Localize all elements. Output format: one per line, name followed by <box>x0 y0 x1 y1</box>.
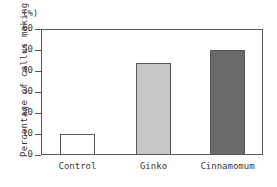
y-axis-tick-mark <box>35 113 41 114</box>
y-axis-tick-label: 30 <box>0 86 33 96</box>
y-axis-tick-mark <box>35 50 41 51</box>
y-axis-tick-mark <box>35 134 41 135</box>
y-axis-tick-mark <box>35 71 41 72</box>
y-axis-tick-label: 0 <box>0 149 33 159</box>
y-axis-tick-mark <box>35 92 41 93</box>
y-axis-tick-label: 10 <box>0 128 33 138</box>
bar-control <box>60 134 95 155</box>
bar-ginko <box>136 63 171 155</box>
bar-chart-figure: Percentage of callus making (%) 01020304… <box>0 0 276 187</box>
y-axis-unit-label: (%) <box>22 8 38 18</box>
y-axis-tick-mark <box>35 155 41 156</box>
x-axis-label-cinnamomum: Cinnamomum <box>178 161 277 171</box>
bar-cinnamomum <box>210 50 245 155</box>
y-axis-tick-label: 40 <box>0 65 33 75</box>
y-axis-tick-label: 60 <box>0 23 33 33</box>
y-axis-tick-mark <box>35 29 41 30</box>
y-axis-tick-label: 50 <box>0 44 33 54</box>
y-axis-tick-label: 20 <box>0 107 33 117</box>
